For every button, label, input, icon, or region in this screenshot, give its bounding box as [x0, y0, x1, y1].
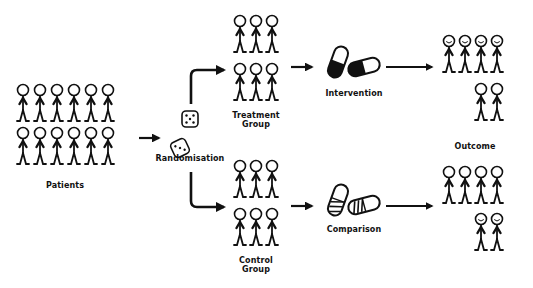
- dice-icon: [169, 111, 198, 159]
- treatment-group-label-line1: Treatment: [226, 111, 286, 120]
- control-outcome-figures: [443, 167, 503, 251]
- outcome-label: Outcome: [440, 142, 510, 151]
- patients-label: Patients: [30, 181, 100, 190]
- control-group-label-line1: Control: [226, 256, 286, 265]
- striped-pill-icon: [326, 183, 381, 218]
- intervention-label: Intervention: [318, 89, 390, 98]
- arrow-to-control: [191, 172, 224, 207]
- treatment-outcome-figures: [443, 36, 503, 121]
- rct-diagram: Patients Randomisation Treatment Group C…: [0, 0, 533, 288]
- patients-group: [17, 85, 114, 165]
- solid-pill-icon: [326, 45, 381, 80]
- control-group-figures: [234, 161, 278, 246]
- treatment-group-figures: [234, 16, 278, 101]
- arrow-to-treatment: [191, 70, 224, 104]
- comparison-label: Comparison: [318, 225, 390, 234]
- control-group-label-line2: Group: [226, 265, 286, 274]
- treatment-group-label-line2: Group: [226, 120, 286, 129]
- randomisation-label: Randomisation: [150, 154, 230, 163]
